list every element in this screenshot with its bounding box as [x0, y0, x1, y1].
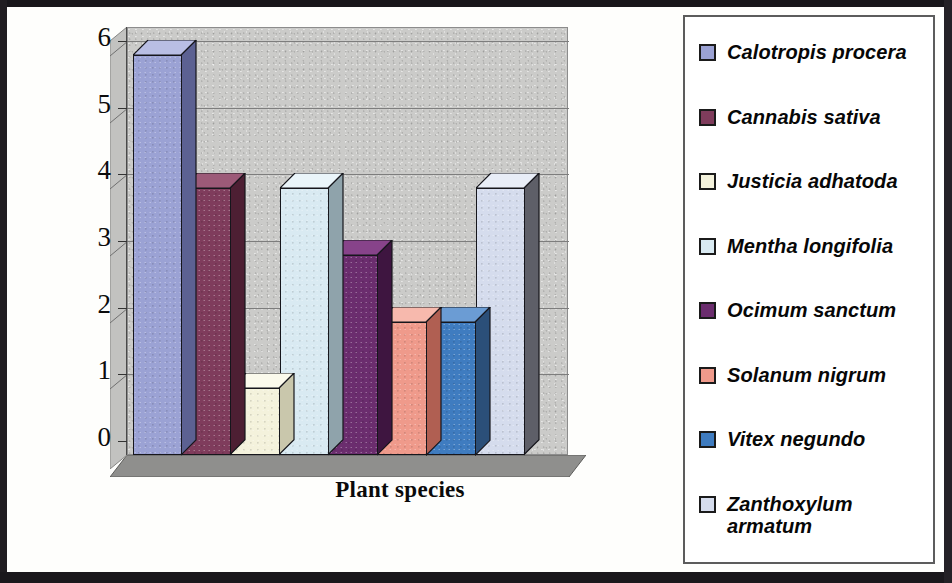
legend-item[interactable]: Ocimum sanctum	[699, 299, 896, 321]
legend-item[interactable]: Cannabis sativa	[699, 106, 881, 128]
chart-legend: Calotropis proceraCannabis sativaJustici…	[683, 15, 935, 564]
chart-figure: 0123456 No. of families Plant species Ca…	[0, 0, 952, 583]
legend-label: Justicia adhatoda	[727, 170, 898, 192]
legend-swatch-icon	[699, 302, 716, 319]
y-axis-tick-label: 4	[77, 155, 111, 186]
plot-floor	[110, 455, 586, 477]
figure-border-bottom	[0, 572, 952, 583]
legend-label: Mentha longifolia	[727, 235, 893, 257]
y-axis-tick-label: 2	[77, 289, 111, 320]
legend-swatch-icon	[699, 238, 716, 255]
legend-swatch-icon	[699, 173, 716, 190]
figure-border-top	[0, 0, 952, 7]
y-axis-tick	[118, 441, 127, 442]
bar-front-face	[133, 55, 182, 455]
y-axis-tick	[118, 374, 127, 375]
legend-label: Ocimum sanctum	[727, 299, 896, 321]
legend-label: Solanum nigrum	[727, 364, 886, 386]
legend-label: Calotropis procera	[727, 41, 907, 63]
legend-label: Cannabis sativa	[727, 106, 881, 128]
bar-column	[133, 40, 182, 455]
legend-label: Vitex negundo	[727, 428, 865, 450]
legend-swatch-icon	[699, 367, 716, 384]
plot-area: 0123456 No. of families Plant species	[110, 13, 685, 483]
y-axis-tick	[118, 108, 127, 109]
legend-swatch-icon	[699, 109, 716, 126]
y-axis-tick-label: 5	[77, 89, 111, 120]
bar-side-face	[230, 173, 247, 457]
x-axis-title: Plant species	[230, 477, 570, 503]
bar-side-face	[426, 307, 443, 457]
legend-swatch-icon	[699, 431, 716, 448]
bar-side-face	[524, 173, 541, 457]
y-axis-tick-label: 6	[77, 22, 111, 53]
bar-side-face	[377, 240, 394, 457]
bar-side-face	[475, 307, 492, 457]
legend-item[interactable]: Mentha longifolia	[699, 235, 893, 257]
legend-item[interactable]: Vitex negundo	[699, 428, 865, 450]
legend-item[interactable]: Solanum nigrum	[699, 364, 886, 386]
legend-item[interactable]: Calotropis procera	[699, 41, 907, 63]
figure-canvas: 0123456 No. of families Plant species Ca…	[7, 7, 944, 572]
legend-item[interactable]: Justicia adhatoda	[699, 170, 898, 192]
y-axis-tick-label: 3	[77, 222, 111, 253]
y-axis-tick	[118, 174, 127, 175]
y-axis-tick-label: 0	[77, 422, 111, 453]
bar-side-face	[328, 173, 345, 457]
legend-swatch-icon	[699, 44, 716, 61]
y-axis-tick	[118, 241, 127, 242]
legend-swatch-icon	[699, 496, 716, 513]
figure-border-left	[0, 0, 7, 583]
figure-border-right	[944, 0, 952, 583]
legend-label: Zanthoxylum armatum	[727, 493, 853, 538]
bar-side-face	[181, 40, 198, 457]
y-axis-tick	[118, 41, 127, 42]
y-axis-tick-label: 1	[77, 355, 111, 386]
legend-item[interactable]: Zanthoxylum armatum	[699, 493, 853, 538]
y-axis-tick	[118, 308, 127, 309]
